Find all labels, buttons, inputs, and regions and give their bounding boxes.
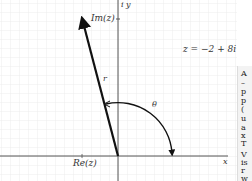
side-text-panel: A – p p ( u a x T V is r w [237, 66, 252, 181]
y-axis-label: i y [121, 1, 131, 9]
panel-text-line: p [241, 97, 246, 105]
diagram-svg [0, 0, 252, 181]
modulus-label: r [103, 75, 107, 83]
complex-plane-diagram: i y Im(z) Re(z) x r θ z = −2 + 8i [0, 0, 252, 181]
angle-label: θ [152, 101, 157, 109]
imag-part-label: Im(z) [91, 14, 115, 23]
panel-text-line: A [241, 70, 247, 78]
panel-text-line: u [241, 115, 246, 123]
equation-label: z = −2 + 8i [183, 45, 236, 54]
x-axis-label: x [223, 158, 228, 166]
panel-text-line: w [241, 175, 248, 181]
panel-text-line: ( [241, 106, 244, 114]
panel-text-line: – [241, 79, 245, 87]
panel-text-line: p [241, 88, 246, 96]
panel-text-line: T [241, 140, 246, 148]
real-part-label: Re(z) [73, 159, 97, 168]
